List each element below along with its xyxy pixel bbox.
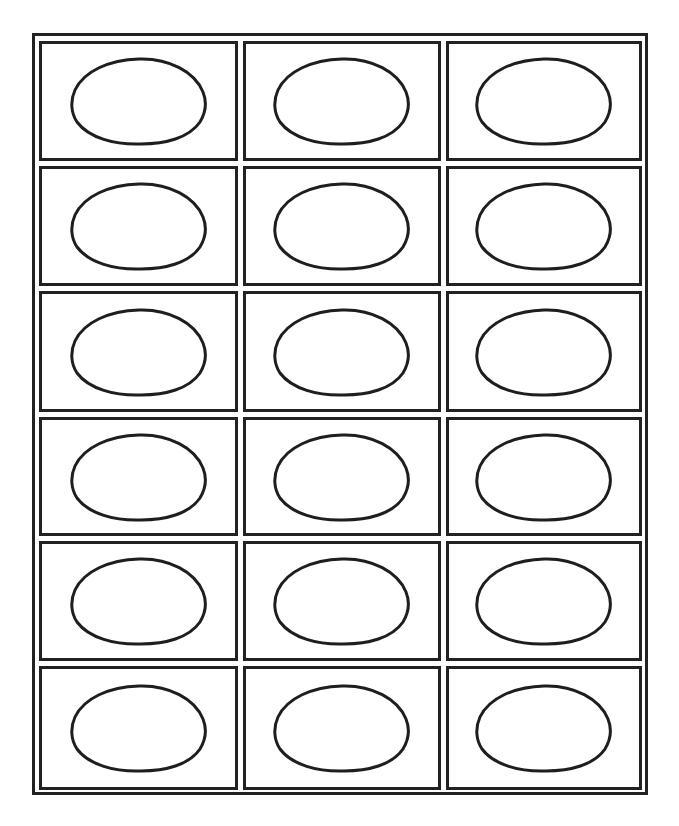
label-sheet [32,33,648,795]
oval-icon [474,181,614,271]
oval-icon [272,181,412,271]
label-cell-r4-c3 [446,417,642,536]
oval-icon [69,56,209,146]
label-cell-r5-c2 [243,541,441,661]
label-cell-r2-c2 [243,166,441,286]
oval-icon [272,683,412,773]
label-cell-r4-c1 [39,417,238,536]
label-cell-r5-c1 [39,541,238,661]
label-cell-r2-c3 [446,166,642,286]
label-cell-r4-c2 [243,417,441,536]
label-cell-r1-c1 [39,41,238,161]
oval-icon [69,181,209,271]
oval-icon [272,432,412,522]
oval-icon [69,556,209,646]
oval-icon [69,307,209,397]
oval-icon [474,307,614,397]
label-cell-r6-c1 [39,666,238,790]
label-cell-r6-c3 [446,666,642,790]
label-cell-r1-c3 [446,41,642,161]
oval-icon [69,683,209,773]
oval-icon [474,56,614,146]
label-cell-r3-c1 [39,291,238,412]
oval-icon [474,432,614,522]
oval-icon [69,432,209,522]
label-cell-r6-c2 [243,666,441,790]
oval-icon [272,307,412,397]
label-cell-r3-c2 [243,291,441,412]
label-grid [39,41,642,790]
oval-icon [474,683,614,773]
oval-icon [272,556,412,646]
oval-icon [272,56,412,146]
label-cell-r3-c3 [446,291,642,412]
label-cell-r5-c3 [446,541,642,661]
label-cell-r2-c1 [39,166,238,286]
label-cell-r1-c2 [243,41,441,161]
oval-icon [474,556,614,646]
